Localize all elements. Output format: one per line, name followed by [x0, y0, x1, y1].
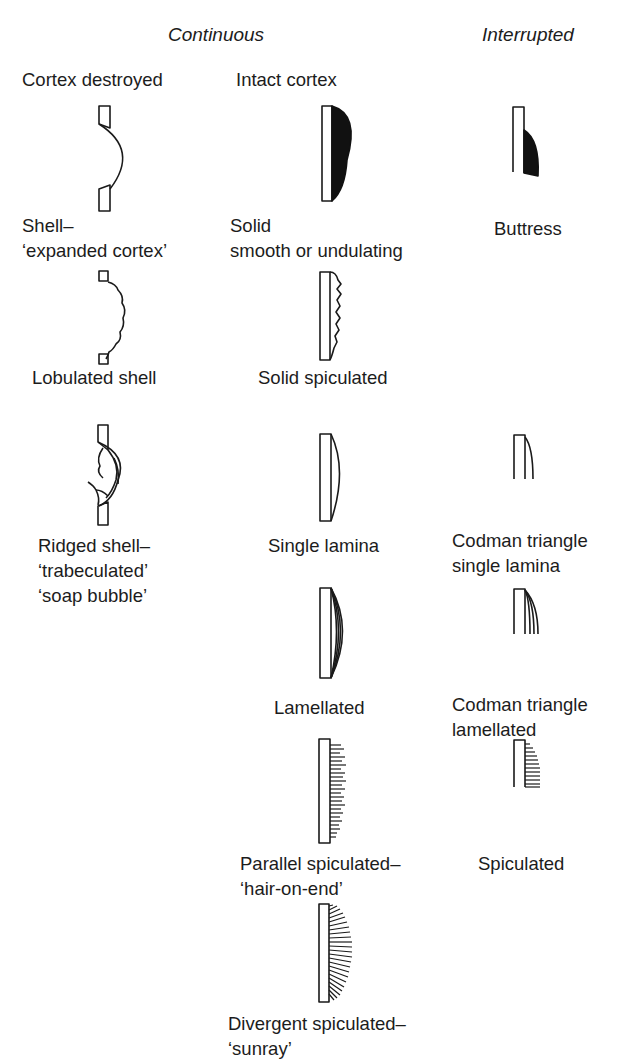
- buttress-drawing: [513, 107, 538, 176]
- lamellated-drawing: [320, 588, 343, 678]
- periosteal-reaction-figures: [0, 0, 620, 1061]
- codman-single-lamina-drawing: [514, 435, 533, 479]
- solid-spiculated-drawing: [320, 272, 341, 360]
- ridged-shell-drawing: [88, 425, 121, 525]
- single-lamina-drawing: [320, 434, 340, 521]
- codman-lamellated-drawing: [514, 589, 538, 634]
- cortex-destroyed-drawing: [99, 106, 123, 211]
- divergent-spiculated-drawing: [319, 904, 352, 1002]
- intact-cortex-drawing: [322, 106, 351, 201]
- interrupted-spiculated-drawing: [514, 740, 540, 787]
- lobulated-shell-drawing: [99, 271, 125, 364]
- parallel-spiculated-drawing: [319, 739, 346, 843]
